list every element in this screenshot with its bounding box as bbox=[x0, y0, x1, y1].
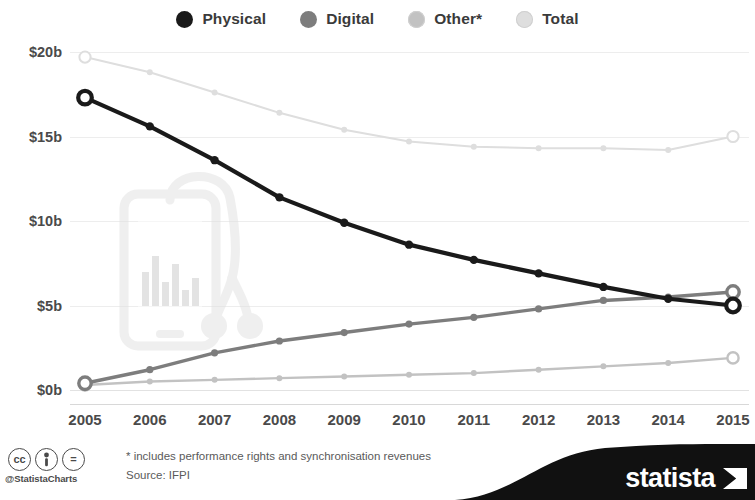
data-point[interactable] bbox=[212, 90, 218, 96]
x-tick-label: 2005 bbox=[68, 411, 101, 428]
legend-swatch-digital bbox=[300, 11, 317, 28]
series-physical bbox=[78, 91, 740, 312]
x-axis-line bbox=[70, 404, 749, 405]
legend-label-physical: Physical bbox=[202, 10, 266, 28]
legend-item-digital[interactable]: Digital bbox=[300, 10, 374, 28]
chart-source: Source: IFPI bbox=[126, 469, 190, 481]
data-point[interactable] bbox=[340, 218, 348, 226]
data-point[interactable] bbox=[599, 283, 607, 291]
data-point[interactable] bbox=[146, 366, 153, 373]
chart-legend: Physical Digital Other* Total bbox=[0, 4, 755, 34]
data-point[interactable] bbox=[470, 256, 478, 264]
data-point[interactable] bbox=[471, 144, 477, 150]
data-point[interactable] bbox=[727, 131, 738, 142]
cc-nd-equals-icon: = bbox=[62, 448, 85, 471]
x-tick-label: 2006 bbox=[133, 411, 166, 428]
data-point[interactable] bbox=[536, 145, 542, 151]
series-total bbox=[79, 51, 738, 153]
data-point[interactable] bbox=[665, 147, 671, 153]
cc-by-person-icon bbox=[35, 448, 58, 471]
data-point[interactable] bbox=[470, 314, 477, 321]
series-other bbox=[79, 352, 738, 390]
data-point[interactable] bbox=[341, 329, 348, 336]
x-tick-label: 2014 bbox=[652, 411, 685, 428]
data-point[interactable] bbox=[147, 69, 153, 75]
data-point[interactable] bbox=[79, 51, 90, 62]
creative-commons-icons: cc = bbox=[8, 448, 85, 471]
x-tick-label: 2011 bbox=[458, 411, 491, 428]
chart-footnote: * includes performance rights and synchr… bbox=[126, 450, 431, 462]
plot-area: $0b$5b$10b$15b$20b bbox=[0, 36, 755, 408]
data-point[interactable] bbox=[341, 373, 347, 379]
cc-icon: cc bbox=[8, 448, 31, 471]
data-point[interactable] bbox=[726, 299, 740, 313]
data-point[interactable] bbox=[147, 379, 153, 385]
data-point[interactable] bbox=[146, 122, 154, 130]
data-point[interactable] bbox=[276, 337, 283, 344]
legend-swatch-other bbox=[408, 11, 425, 28]
data-point[interactable] bbox=[665, 360, 671, 366]
legend-label-other: Other* bbox=[434, 10, 482, 28]
data-point[interactable] bbox=[341, 127, 347, 133]
x-tick-label: 2007 bbox=[198, 411, 231, 428]
series-line bbox=[85, 57, 733, 150]
data-point[interactable] bbox=[727, 286, 739, 298]
data-point[interactable] bbox=[664, 295, 672, 303]
x-tick-label: 2013 bbox=[587, 411, 620, 428]
x-axis: 2005200620072008200920102011201220132014… bbox=[0, 404, 755, 438]
x-tick-label: 2008 bbox=[263, 411, 296, 428]
data-point[interactable] bbox=[211, 349, 218, 356]
data-point[interactable] bbox=[534, 269, 542, 277]
legend-swatch-physical bbox=[176, 11, 193, 28]
data-point[interactable] bbox=[210, 156, 218, 164]
series-line bbox=[85, 292, 733, 383]
series-line bbox=[85, 98, 733, 306]
data-point[interactable] bbox=[535, 305, 542, 312]
data-point[interactable] bbox=[471, 370, 477, 376]
data-point[interactable] bbox=[276, 375, 282, 381]
legend-item-other[interactable]: Other* bbox=[408, 10, 482, 28]
data-point[interactable] bbox=[78, 91, 92, 105]
data-point[interactable] bbox=[275, 193, 283, 201]
legend-item-total[interactable]: Total bbox=[516, 10, 578, 28]
person-glyph bbox=[40, 452, 53, 467]
chart-root: Physical Digital Other* Total $0b$5b$10b… bbox=[0, 0, 755, 500]
data-point[interactable] bbox=[405, 320, 412, 327]
statista-brand-banner: statista bbox=[455, 438, 755, 500]
data-point[interactable] bbox=[276, 110, 282, 116]
statista-wordmark: statista bbox=[625, 465, 715, 492]
x-tick-label: 2012 bbox=[522, 411, 555, 428]
legend-label-total: Total bbox=[542, 10, 578, 28]
data-point[interactable] bbox=[727, 352, 738, 363]
series-layer bbox=[0, 36, 755, 408]
data-point[interactable] bbox=[600, 363, 606, 369]
data-point[interactable] bbox=[405, 240, 413, 248]
data-point[interactable] bbox=[536, 367, 542, 373]
x-tick-label: 2009 bbox=[328, 411, 361, 428]
statista-charts-handle: @StatistaCharts bbox=[5, 473, 77, 484]
legend-item-physical[interactable]: Physical bbox=[176, 10, 266, 28]
data-point[interactable] bbox=[406, 372, 412, 378]
data-point[interactable] bbox=[600, 145, 606, 151]
x-tick-label: 2010 bbox=[392, 411, 425, 428]
legend-swatch-total bbox=[516, 11, 533, 28]
legend-label-digital: Digital bbox=[326, 10, 374, 28]
x-tick-label: 2015 bbox=[716, 411, 749, 428]
data-point[interactable] bbox=[212, 377, 218, 383]
data-point[interactable] bbox=[406, 139, 412, 145]
chart-footer: cc = @StatistaCharts * includes performa… bbox=[0, 440, 755, 500]
data-point[interactable] bbox=[600, 297, 607, 304]
data-point[interactable] bbox=[79, 377, 91, 389]
